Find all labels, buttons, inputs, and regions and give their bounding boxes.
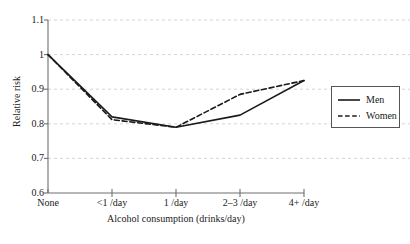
legend-label-men: Men	[366, 95, 384, 105]
legend-item-women: Women	[332, 108, 399, 124]
y-axis-tick-label: 1.1	[20, 15, 44, 25]
x-axis-tick-label: <1 /day	[97, 197, 127, 209]
x-axis-tick-label: 1 /day	[164, 197, 189, 209]
y-axis-tick-label: 1	[20, 50, 44, 60]
x-axis-tick-label: 4+ /day	[289, 197, 319, 209]
relative-risk-line-chart: 0.60.70.80.911.1 None<1 /day1 /day2–3 /d…	[0, 0, 410, 244]
dashed-line-icon	[337, 111, 361, 121]
x-axis-tick-labels: None<1 /day1 /day2–3 /day4+ /day	[0, 197, 330, 213]
x-axis-tick-label: None	[37, 197, 59, 209]
y-axis-title: Relative risk	[11, 42, 22, 162]
y-axis-tick-label: 0.8	[20, 119, 44, 129]
solid-line-icon	[337, 95, 361, 105]
y-axis-tick-label: 0.7	[20, 153, 44, 163]
legend-item-men: Men	[332, 92, 399, 108]
series-line-men	[48, 55, 304, 128]
x-axis-title: Alcohol consumption (drinks/day)	[48, 213, 304, 225]
axis-lines	[48, 20, 304, 193]
y-axis-ticks	[44, 20, 48, 193]
y-axis-tick-label: 0.9	[20, 84, 44, 94]
chart-legend: Men Women	[331, 86, 400, 128]
legend-label-women: Women	[366, 111, 397, 121]
x-axis-tick-label: 2–3 /day	[223, 197, 258, 209]
data-series-group	[48, 55, 304, 128]
